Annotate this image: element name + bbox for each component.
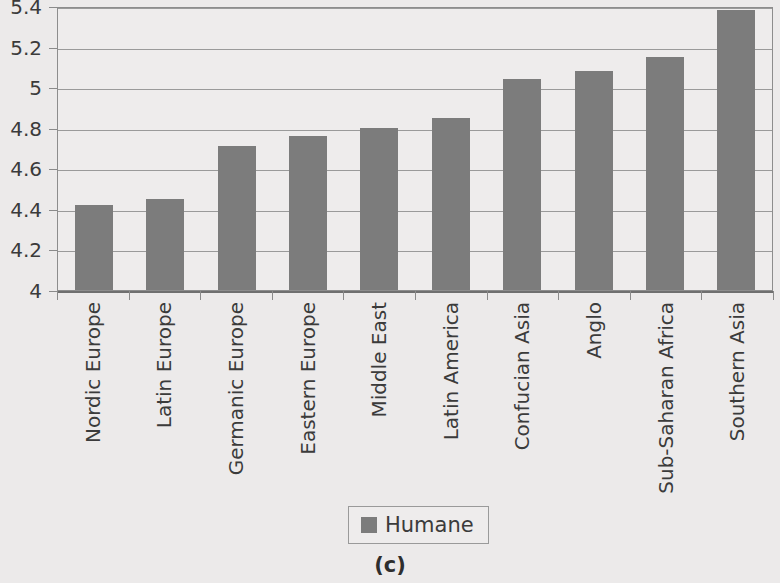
x-axis-label-slot: Eastern Europe	[272, 302, 344, 492]
bar	[289, 136, 327, 290]
bar-slot	[415, 8, 486, 290]
y-axis-tick-label: 4.2	[10, 240, 42, 260]
bar	[503, 79, 541, 290]
x-axis-labels: Nordic EuropeLatin EuropeGermanic Europe…	[57, 302, 773, 492]
bar	[717, 10, 755, 290]
y-axis-tick-label: 5.4	[10, 0, 42, 17]
x-axis-ticks	[57, 291, 773, 300]
bar	[146, 199, 184, 290]
bar-slot	[486, 8, 557, 290]
y-axis-tick-label: 5.2	[10, 38, 42, 58]
x-axis-tick-mark	[129, 291, 130, 300]
y-axis-tick-mark	[49, 169, 57, 170]
bar	[75, 205, 113, 290]
y-axis-tick-mark	[49, 48, 57, 49]
x-axis-tick-label: Eastern Europe	[298, 302, 318, 455]
x-axis-tick-mark	[272, 291, 273, 300]
bar	[646, 57, 684, 290]
legend-label: Humane	[385, 515, 474, 536]
bar-slot	[129, 8, 200, 290]
x-axis-label-slot: Latin America	[415, 302, 487, 492]
y-axis-tick-label: 4.6	[10, 159, 42, 179]
x-axis-tick-mark	[200, 291, 201, 300]
bar-series-humane	[58, 8, 772, 290]
bar	[575, 71, 613, 290]
x-axis-tick-label: Germanic Europe	[226, 302, 246, 475]
legend: Humane	[348, 506, 489, 544]
bar-slot	[272, 8, 343, 290]
x-axis-tick-label: Southern Asia	[727, 302, 747, 441]
bar-slot	[629, 8, 700, 290]
x-axis-label-slot: Anglo	[558, 302, 630, 492]
y-axis-tick-label: 4.4	[10, 200, 42, 220]
x-axis-tick-mark	[701, 291, 702, 300]
x-axis-tick-mark	[57, 291, 58, 300]
bar-slot	[58, 8, 129, 290]
y-axis-tick-label: 4	[29, 281, 42, 301]
x-axis-tick-mark	[558, 291, 559, 300]
bar-slot	[344, 8, 415, 290]
y-axis-tick-mark	[49, 250, 57, 251]
y-axis-tick-mark	[49, 88, 57, 89]
x-axis-tick-label: Latin America	[441, 302, 461, 440]
bar-slot	[201, 8, 272, 290]
x-axis-label-slot: Sub-Saharan Africa	[630, 302, 702, 492]
x-axis-tick-mark	[630, 291, 631, 300]
x-axis-tick-label: Middle East	[369, 302, 389, 418]
y-axis: 44.24.44.64.855.25.4	[0, 0, 52, 300]
bar	[360, 128, 398, 290]
bar-slot	[701, 8, 772, 290]
x-axis-tick-mark	[415, 291, 416, 300]
figure-panel-c: 44.24.44.64.855.25.4 Nordic EuropeLatin …	[0, 0, 780, 583]
y-axis-tick-mark	[49, 210, 57, 211]
x-axis-tick-label: Confucian Asia	[512, 302, 532, 450]
x-axis-tick-mark	[343, 291, 344, 300]
y-axis-tick-mark	[49, 129, 57, 130]
x-axis-tick-label: Anglo	[584, 302, 604, 359]
y-axis-tick-label: 5	[29, 78, 42, 98]
bar-slot	[558, 8, 629, 290]
bar	[432, 118, 470, 290]
x-axis-tick-label: Nordic Europe	[83, 302, 103, 443]
y-axis-tick-mark	[49, 7, 57, 8]
plot-area	[57, 7, 773, 291]
bar	[218, 146, 256, 290]
x-axis-tick-mark	[487, 291, 488, 300]
x-axis-label-slot: Germanic Europe	[200, 302, 272, 492]
x-axis-label-slot: Nordic Europe	[57, 302, 129, 492]
x-axis-label-slot: Confucian Asia	[487, 302, 559, 492]
y-axis-tick-mark	[49, 291, 57, 292]
x-axis-label-slot: Southern Asia	[701, 302, 773, 492]
x-axis-tick-label: Latin Europe	[154, 302, 174, 428]
x-axis-tick-mark	[773, 291, 774, 300]
x-axis-tick-label: Sub-Saharan Africa	[656, 302, 676, 494]
y-axis-tick-label: 4.8	[10, 119, 42, 139]
x-axis-label-slot: Latin Europe	[129, 302, 201, 492]
figure-caption: (c)	[0, 553, 780, 577]
x-axis-label-slot: Middle East	[343, 302, 415, 492]
legend-swatch-icon	[361, 517, 377, 533]
